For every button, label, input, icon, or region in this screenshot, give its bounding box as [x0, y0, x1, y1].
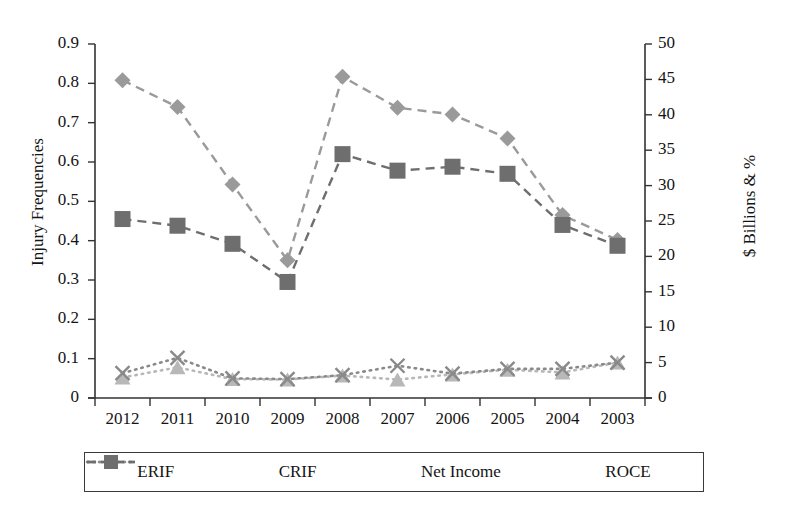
tick-marks-left	[88, 44, 95, 398]
x-axis-tick-label: 2011	[148, 409, 208, 429]
y-axis-left-tick-label: 0.6	[31, 151, 79, 171]
y-axis-left-tick-label: 0.2	[31, 308, 79, 328]
y-axis-left-tick-label: 0.9	[31, 33, 79, 53]
y-axis-right-tick-label: 10	[658, 316, 706, 336]
x-axis-tick-label: 2010	[203, 409, 263, 429]
y-axis-right-tick-label: 25	[658, 210, 706, 230]
x-axis-tick-label: 2007	[368, 409, 428, 429]
y-axis-left-tick-label: 0.7	[31, 112, 79, 132]
x-axis-tick-label: 2008	[313, 409, 373, 429]
legend-label-net-income: Net Income	[421, 462, 501, 482]
legend-item-roce[interactable]: ROCE	[605, 462, 650, 482]
x-axis-tick-label: 2009	[258, 409, 318, 429]
legend-item-net-income[interactable]: Net Income	[421, 462, 501, 482]
legend-label-erif: ERIF	[137, 462, 174, 482]
legend-item-erif[interactable]: ERIF	[137, 462, 174, 482]
y-axis-right-tick-label: 45	[658, 68, 706, 88]
y-axis-right-tick-label: 0	[658, 387, 706, 407]
y-axis-left-tick-label: 0.3	[31, 269, 79, 289]
tick-marks-right	[645, 44, 652, 398]
y-axis-left-tick-label: 0.1	[31, 348, 79, 368]
series-layer	[115, 69, 626, 387]
legend-item-crif[interactable]: CRIF	[279, 462, 317, 482]
y-axis-left-tick-label: 0	[31, 387, 79, 407]
x-axis-tick-label: 2004	[533, 409, 593, 429]
y-axis-left-tick-label: 0.4	[31, 230, 79, 250]
y-axis-right-tick-label: 50	[658, 33, 706, 53]
x-axis-tick-label: 2005	[478, 409, 538, 429]
series-crif	[116, 351, 625, 386]
x-axis-tick-label: 2006	[423, 409, 483, 429]
y-axis-right-tick-label: 35	[658, 139, 706, 159]
roce-marker-icon	[85, 453, 137, 471]
y-axis-left-tick-label: 0.8	[31, 72, 79, 92]
y-axis-right-tick-label: 5	[658, 352, 706, 372]
y-axis-right-tick-label: 20	[658, 245, 706, 265]
chart-container: Injury Frequencies $ Billions & % 00.10.…	[0, 0, 798, 519]
y-axis-left-tick-label: 0.5	[31, 190, 79, 210]
legend-label-roce: ROCE	[605, 462, 650, 482]
y-axis-right-tick-label: 40	[658, 104, 706, 124]
x-axis-tick-label: 2003	[588, 409, 648, 429]
y-axis-right-tick-label: 30	[658, 175, 706, 195]
series-net-income	[115, 69, 626, 269]
tick-marks-x	[95, 398, 645, 406]
legend-label-crif: CRIF	[279, 462, 317, 482]
y-axis-right-tick-label: 15	[658, 281, 706, 301]
series-roce	[115, 146, 626, 290]
x-axis-tick-label: 2012	[93, 409, 153, 429]
chart-legend: ERIF CRIF Net Income ROCE	[84, 452, 704, 492]
